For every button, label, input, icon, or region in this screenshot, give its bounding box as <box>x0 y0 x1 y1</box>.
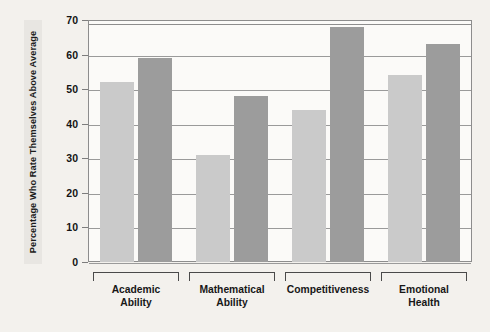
category-label-line: Ability <box>189 297 275 310</box>
bar-light <box>100 82 134 262</box>
category-label-line: Mathematical <box>189 284 275 297</box>
bar-light <box>292 110 326 262</box>
category-label: EmotionalHealth <box>381 284 467 309</box>
category-label: MathematicalAbility <box>189 284 275 309</box>
y-tick-label: 50 <box>44 83 78 95</box>
y-tick-mark <box>82 262 88 263</box>
y-tick-label: 60 <box>44 49 78 61</box>
bar-dark <box>330 27 364 262</box>
category-label-line: Ability <box>93 297 179 310</box>
bar-dark <box>426 44 460 262</box>
bar-light <box>196 155 230 262</box>
bar-light <box>388 75 422 262</box>
y-tick-label: 70 <box>44 14 78 26</box>
category-bracket <box>285 272 371 281</box>
bars-layer <box>88 20 472 262</box>
category-label-line: Competitiveness <box>285 284 371 297</box>
y-tick-label: 30 <box>44 152 78 164</box>
gridline <box>89 263 471 264</box>
category-label: Competitiveness <box>285 284 371 297</box>
y-tick-label: 20 <box>44 187 78 199</box>
bar-dark <box>234 96 268 262</box>
y-axis-title: Percentage Who Rate Themselves Above Ave… <box>24 20 42 264</box>
category-bracket <box>381 272 467 281</box>
category-bracket <box>189 272 275 281</box>
category-label-line: Academic <box>93 284 179 297</box>
category-groups: AcademicAbilityMathematicalAbilityCompet… <box>88 266 472 330</box>
y-tick-label: 10 <box>44 221 78 233</box>
category-bracket <box>93 272 179 281</box>
category-label-line: Health <box>381 297 467 310</box>
category-label-line: Emotional <box>381 284 467 297</box>
category-label: AcademicAbility <box>93 284 179 309</box>
bar-dark <box>138 58 172 262</box>
y-tick-label: 40 <box>44 118 78 130</box>
bar-chart: Percentage Who Rate Themselves Above Ave… <box>0 0 490 332</box>
y-tick-label: 0 <box>44 256 78 268</box>
